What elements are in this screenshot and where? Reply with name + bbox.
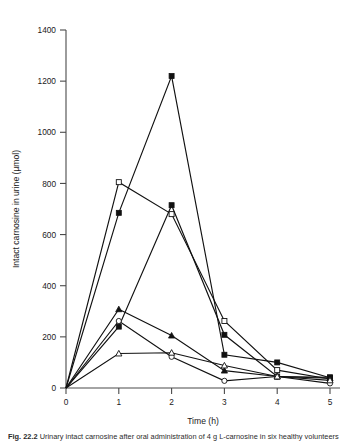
data-point-marker (116, 306, 122, 312)
data-point-marker (275, 368, 280, 373)
x-tick-label: 3 (222, 397, 227, 407)
data-point-marker (116, 318, 121, 323)
y-tick-label: 800 (42, 179, 56, 189)
y-axis-ticks: 0200400600800100012001400 (38, 25, 66, 393)
figure-caption-text: Urinary intact carnosine after oral admi… (40, 432, 339, 441)
x-axis-title: Time (h) (187, 416, 219, 426)
series-line (66, 353, 330, 388)
carnosine-urine-line-chart: 0200400600800100012001400 012345 Time (h… (0, 0, 358, 442)
y-tick-label: 400 (42, 281, 56, 291)
data-point-marker (116, 210, 121, 215)
figure-caption: Fig. 22.2 Urinary intact carnosine after… (8, 431, 354, 442)
data-point-marker (116, 180, 121, 185)
chart-axes (66, 30, 340, 388)
data-point-marker (169, 203, 174, 208)
data-point-marker (222, 319, 227, 324)
y-tick-label: 200 (42, 332, 56, 342)
x-tick-label: 0 (64, 397, 69, 407)
data-point-marker (222, 332, 227, 337)
data-point-marker (116, 324, 121, 329)
y-tick-label: 1200 (38, 76, 57, 86)
y-tick-label: 0 (51, 383, 56, 393)
y-tick-label: 1400 (38, 25, 57, 35)
y-axis-title: Intact carnosine in urine (µmol) (11, 150, 21, 268)
figure-caption-label: Fig. 22.2 (8, 432, 38, 441)
chart-series-group (66, 74, 333, 388)
chart-series (66, 306, 333, 388)
x-axis-ticks: 012345 (64, 388, 333, 407)
x-tick-label: 2 (169, 397, 174, 407)
chart-series (66, 180, 333, 388)
data-point-marker (169, 74, 174, 79)
data-point-marker (222, 352, 227, 357)
data-point-marker (169, 212, 174, 217)
data-point-marker (222, 378, 227, 383)
y-tick-label: 1000 (38, 127, 57, 137)
data-point-marker (275, 360, 280, 365)
y-tick-label: 600 (42, 230, 56, 240)
data-point-marker (169, 332, 175, 338)
chart-series (66, 350, 333, 388)
figure-container: 0200400600800100012001400 012345 Time (h… (0, 0, 358, 442)
x-tick-label: 4 (275, 397, 280, 407)
x-tick-label: 1 (116, 397, 121, 407)
x-tick-label: 5 (328, 397, 333, 407)
